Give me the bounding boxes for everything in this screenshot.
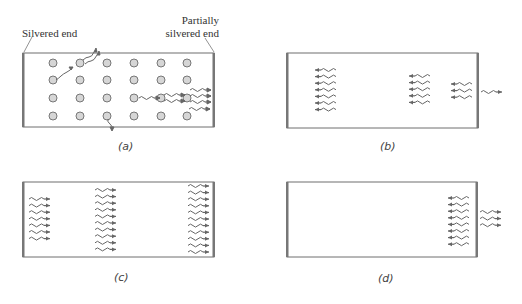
silvered-mirror-d xyxy=(286,182,289,257)
photon-wave-icon xyxy=(95,228,116,232)
photon-wave-icon xyxy=(451,95,472,99)
photon-wave-icon xyxy=(188,210,209,214)
photon-wave-icon xyxy=(188,237,209,241)
caption-a: (a) xyxy=(118,140,133,153)
panel-c: (c) xyxy=(22,182,215,284)
photon-wave-icon xyxy=(29,223,50,227)
atom-icon xyxy=(130,76,138,84)
label-silvered-end: Silvered end xyxy=(22,27,78,39)
photon-wave-icon xyxy=(409,100,430,104)
photon-wave-icon xyxy=(409,87,430,91)
photon-wave-icon xyxy=(451,89,472,93)
photon-wave-icon xyxy=(448,209,469,213)
label-partially: Partially xyxy=(182,14,220,26)
photon-wave-icon xyxy=(95,195,116,199)
photon-wave-icon xyxy=(188,243,209,247)
photon-wave-icon xyxy=(315,108,336,112)
atom-icon xyxy=(49,76,57,84)
partial-mirror-b xyxy=(477,53,480,128)
atom-icon xyxy=(157,112,165,120)
atom-icon xyxy=(183,59,191,67)
silvered-mirror-a xyxy=(22,53,25,127)
photon-wave-icon xyxy=(480,210,501,214)
atom-icon xyxy=(157,76,165,84)
photon-wave-icon xyxy=(188,250,209,254)
photon-pulses-c xyxy=(29,184,209,254)
photon-wave-icon xyxy=(95,234,116,238)
photon-wave-icon xyxy=(95,241,116,245)
caption-b: (b) xyxy=(380,140,396,153)
silvered-mirror-b xyxy=(286,53,289,128)
laser-cavity-c xyxy=(23,182,214,257)
atom-icon xyxy=(103,76,111,84)
leader-line-silvered xyxy=(24,37,32,52)
panel-b: (b) xyxy=(286,53,502,153)
photon-wave-icon xyxy=(448,216,469,220)
photon-wave-icon xyxy=(95,208,116,212)
atom-icon xyxy=(103,112,111,120)
atom-icon xyxy=(103,59,111,67)
silvered-mirror-c xyxy=(22,182,25,257)
atom-icon xyxy=(76,94,84,102)
photon-wave-icon xyxy=(29,210,50,214)
photon-wave-icon xyxy=(448,196,469,200)
photon-pulses-d xyxy=(448,196,501,246)
photon-wave-icon xyxy=(95,214,116,218)
atom-icon xyxy=(157,59,165,67)
partial-mirror-a xyxy=(213,53,216,127)
photon-wave-icon xyxy=(448,242,469,246)
photon-wave-icon xyxy=(448,222,469,226)
photon-wave-icon xyxy=(315,88,336,92)
atom-icon xyxy=(49,112,57,120)
atom-icon xyxy=(49,59,57,67)
panel-d: (d) xyxy=(286,182,501,285)
photon-wave-icon xyxy=(95,188,116,192)
panel-a: Silvered end Partially silvered end (a) xyxy=(22,14,220,153)
photon-wave-icon xyxy=(29,197,50,201)
atom-icon xyxy=(183,76,191,84)
atom-icon xyxy=(103,94,111,102)
photon-wave-icon xyxy=(188,224,209,228)
leader-line-partial xyxy=(205,38,214,52)
atom-icon xyxy=(76,76,84,84)
laser-cavity-b xyxy=(287,53,478,128)
photon-wave-icon xyxy=(315,68,336,72)
photon-wave-icon xyxy=(315,75,336,79)
photon-wave-icon xyxy=(315,101,336,105)
photon-wave-icon xyxy=(95,221,116,225)
atom-icon xyxy=(130,94,138,102)
photon-wave-icon xyxy=(409,74,430,78)
label-silvered-end-2: silvered end xyxy=(166,27,220,39)
photon-wave-icon xyxy=(480,217,501,221)
photon-wave-icon xyxy=(188,217,209,221)
photon-wave-icon xyxy=(315,81,336,85)
photon-wave-icon xyxy=(95,247,116,251)
photon-wave-icon xyxy=(409,94,430,98)
atom-icon xyxy=(49,94,57,102)
partial-mirror-c xyxy=(213,182,216,257)
photon-wave-icon xyxy=(409,81,430,85)
atom-icon xyxy=(130,59,138,67)
photon-wave-icon xyxy=(188,230,209,234)
laser-diagram: Silvered end Partially silvered end (a) … xyxy=(0,0,522,304)
caption-c: (c) xyxy=(114,271,129,284)
caption-d: (d) xyxy=(378,272,394,285)
photon-wave-icon xyxy=(95,201,116,205)
photon-wave-icon xyxy=(451,82,472,86)
photon-wave-icon xyxy=(480,223,501,227)
photon-wave-icon xyxy=(188,184,209,188)
photon-wave-icon xyxy=(448,236,469,240)
atom-icon xyxy=(76,112,84,120)
atom-icon xyxy=(76,59,84,67)
photon-wave-icon xyxy=(315,94,336,98)
photon-wave-icon xyxy=(188,197,209,201)
photon-pulses-b xyxy=(315,68,472,112)
photon-wave-icon xyxy=(29,237,50,241)
photon-wave-icon xyxy=(188,204,209,208)
photon-wave-icon xyxy=(448,203,469,207)
photon-wave-icon xyxy=(188,191,209,195)
photon-wave-icon xyxy=(29,204,50,208)
photon-wave-icon xyxy=(29,217,50,221)
atom-icon xyxy=(130,112,138,120)
output-beam-b xyxy=(481,90,502,94)
